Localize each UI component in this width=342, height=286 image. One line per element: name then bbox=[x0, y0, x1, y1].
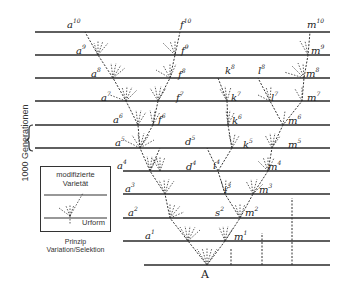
node-label-a3: a3 bbox=[125, 182, 135, 194]
node-label-s2: s2 bbox=[215, 206, 224, 218]
node-label-f10: f10 bbox=[180, 18, 191, 30]
node-label-a2: a2 bbox=[128, 206, 138, 218]
node-label-f9: f9 bbox=[181, 44, 189, 56]
node-label-l8: l8 bbox=[258, 64, 265, 76]
generation-axis-label: 1000 Generationen bbox=[20, 98, 30, 188]
node-label-m5: m5 bbox=[288, 138, 301, 150]
legend-urform-label: Urform bbox=[82, 218, 105, 227]
node-label-m4: m4 bbox=[268, 160, 281, 172]
node-label-a8: a8 bbox=[91, 67, 101, 79]
node-label-i3: i3 bbox=[224, 183, 231, 195]
node-label-f8: f8 bbox=[178, 68, 186, 80]
node-label-i4: i4 bbox=[213, 159, 220, 171]
node-label-m3: m3 bbox=[259, 183, 272, 195]
node-label-a5: a5 bbox=[115, 136, 125, 148]
node-label-k6: k6 bbox=[232, 114, 242, 126]
node-label-m6: m6 bbox=[288, 114, 301, 126]
node-label-m1: m1 bbox=[234, 230, 247, 242]
node-label-k8: k8 bbox=[225, 64, 235, 76]
node-label-f7: f7 bbox=[176, 91, 184, 103]
legend-title: modifizierte Varietät bbox=[41, 171, 110, 188]
node-label-m8: m8 bbox=[306, 67, 319, 79]
node-label-a7: a7 bbox=[101, 91, 111, 103]
node-label-m10: m10 bbox=[307, 18, 324, 30]
node-label-m2: m2 bbox=[245, 206, 258, 218]
legend-box: modifizierte Varietät Urform bbox=[40, 166, 111, 232]
node-label-a4: a4 bbox=[117, 159, 127, 171]
node-label-a1: a1 bbox=[145, 229, 155, 241]
node-label-d4: d4 bbox=[186, 160, 196, 172]
node-label-f6: f6 bbox=[158, 113, 166, 125]
node-label-m9: m9 bbox=[311, 44, 324, 56]
caption-line2: Variation/Selektion bbox=[40, 246, 111, 254]
caption-line1: Prinzip bbox=[40, 238, 111, 246]
node-label-k7: k7 bbox=[231, 91, 241, 103]
node-label-d5: d5 bbox=[185, 135, 195, 147]
node-label-a9: a9 bbox=[76, 44, 86, 56]
node-label-a10: a10 bbox=[67, 18, 81, 30]
legend-caption: Prinzip Variation/Selektion bbox=[40, 238, 111, 255]
node-label-a6: a6 bbox=[113, 113, 123, 125]
variation-fans bbox=[94, 40, 308, 265]
node-label-l7: l7 bbox=[271, 91, 278, 103]
node-label-k5: k5 bbox=[243, 138, 253, 150]
root-label: A bbox=[201, 268, 209, 281]
node-label-m7: m7 bbox=[307, 91, 320, 103]
legend-title-line2: Varietät bbox=[41, 180, 110, 189]
